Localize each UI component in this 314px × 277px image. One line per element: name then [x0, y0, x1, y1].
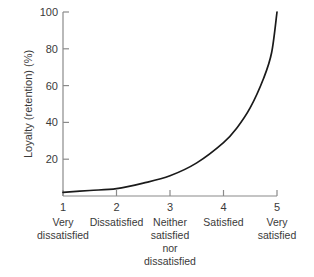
x-tick-label: 5 — [257, 201, 297, 213]
chart-figure: Loyalty (retention) (%) 100 80 60 40 20 — [0, 0, 314, 277]
x-category-line: dissatisfied — [30, 229, 96, 242]
x-category-line: Very — [244, 216, 310, 229]
x-category-label: Very satisfied — [244, 216, 310, 242]
x-category-line: satisfied — [244, 229, 310, 242]
x-category-line: dissatisfied — [137, 255, 203, 268]
x-category-line: nor — [137, 242, 203, 255]
x-axis-tick-labels: 1 2 3 4 5 Very dissatisfied Dissatisfied… — [0, 0, 314, 277]
x-tick-label: 4 — [204, 201, 244, 213]
x-tick-label: 3 — [150, 201, 190, 213]
x-category-line: satisfied — [137, 229, 203, 242]
x-tick-label: 2 — [97, 201, 137, 213]
x-tick-label: 1 — [43, 201, 83, 213]
